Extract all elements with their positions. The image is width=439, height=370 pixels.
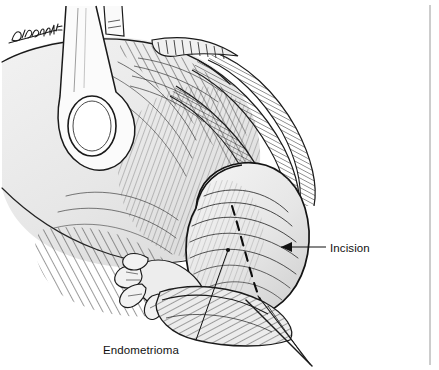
label-incision: Incision [330, 242, 370, 254]
label-endometrioma: Endometrioma [103, 344, 179, 356]
artist-signature [9, 24, 62, 43]
endometrioma-leader-dot [226, 248, 230, 252]
illustration-canvas [0, 0, 439, 370]
endometrioma-figure: Incision Endometrioma [0, 0, 439, 370]
